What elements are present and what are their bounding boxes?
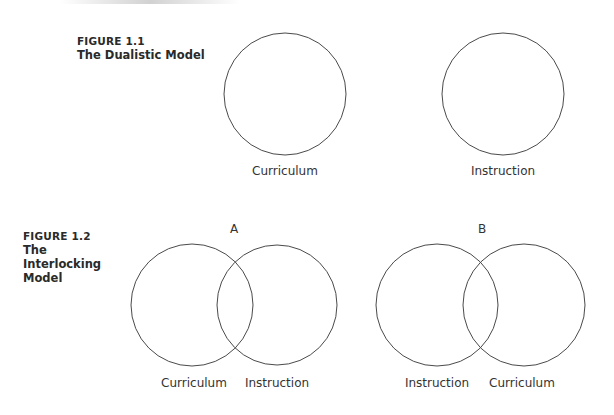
interlocking-b-left-label: Instruction (405, 376, 469, 390)
interlocking-a-right-circle (217, 245, 337, 365)
interlocking-a-left-label: Curriculum (161, 376, 227, 390)
interlocking-b-right-circle (463, 244, 585, 366)
panel-a-tag: A (230, 222, 238, 236)
dualistic-curriculum-label: Curriculum (252, 164, 318, 178)
interlocking-b-left-circle (376, 244, 498, 366)
interlocking-b-right-label: Curriculum (489, 376, 555, 390)
dualistic-instruction-label: Instruction (471, 164, 535, 178)
panel-b-tag: B (478, 222, 486, 236)
dualistic-instruction-circle (442, 33, 564, 155)
interlocking-a-right-label: Instruction (245, 376, 309, 390)
diagram-canvas (0, 0, 614, 415)
dualistic-curriculum-circle (224, 33, 346, 155)
